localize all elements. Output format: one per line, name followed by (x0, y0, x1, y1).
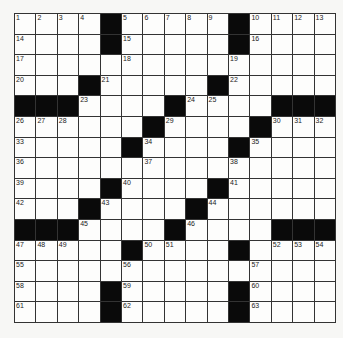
crossword-cell[interactable]: 6 (143, 14, 163, 34)
crossword-cell[interactable]: 41 (229, 179, 249, 199)
crossword-cell[interactable] (293, 179, 313, 199)
crossword-cell[interactable]: 45 (79, 220, 99, 240)
crossword-cell[interactable] (143, 199, 163, 219)
crossword-cell[interactable]: 50 (143, 241, 163, 261)
crossword-cell[interactable] (208, 138, 228, 158)
crossword-cell[interactable] (36, 179, 56, 199)
crossword-cell[interactable] (122, 220, 142, 240)
crossword-cell[interactable] (250, 241, 270, 261)
crossword-cell[interactable] (36, 35, 56, 55)
crossword-cell[interactable] (143, 261, 163, 281)
crossword-cell[interactable] (165, 199, 185, 219)
crossword-cell[interactable]: 35 (250, 138, 270, 158)
crossword-cell[interactable] (143, 55, 163, 75)
crossword-cell[interactable] (186, 35, 206, 55)
crossword-cell[interactable] (250, 179, 270, 199)
crossword-cell[interactable] (272, 179, 292, 199)
crossword-cell[interactable]: 51 (165, 241, 185, 261)
crossword-cell[interactable]: 40 (122, 179, 142, 199)
crossword-cell[interactable] (208, 117, 228, 137)
crossword-cell[interactable] (58, 35, 78, 55)
crossword-cell[interactable] (122, 199, 142, 219)
crossword-cell[interactable]: 24 (186, 96, 206, 116)
crossword-cell[interactable]: 43 (101, 199, 121, 219)
crossword-cell[interactable]: 23 (79, 96, 99, 116)
crossword-cell[interactable]: 11 (272, 14, 292, 34)
crossword-cell[interactable]: 58 (15, 282, 35, 302)
crossword-cell[interactable]: 36 (15, 158, 35, 178)
crossword-cell[interactable] (186, 117, 206, 137)
crossword-cell[interactable] (101, 241, 121, 261)
crossword-cell[interactable] (101, 117, 121, 137)
crossword-cell[interactable] (101, 138, 121, 158)
crossword-cell[interactable] (101, 55, 121, 75)
crossword-cell[interactable] (36, 282, 56, 302)
crossword-cell[interactable] (143, 179, 163, 199)
crossword-cell[interactable] (165, 35, 185, 55)
crossword-cell[interactable] (79, 282, 99, 302)
crossword-cell[interactable]: 28 (58, 117, 78, 137)
crossword-cell[interactable] (272, 138, 292, 158)
crossword-cell[interactable] (79, 117, 99, 137)
crossword-cell[interactable]: 18 (122, 55, 142, 75)
crossword-cell[interactable] (122, 158, 142, 178)
crossword-cell[interactable] (165, 282, 185, 302)
crossword-cell[interactable]: 33 (15, 138, 35, 158)
crossword-cell[interactable]: 4 (79, 14, 99, 34)
crossword-cell[interactable]: 7 (165, 14, 185, 34)
crossword-cell[interactable] (315, 199, 335, 219)
crossword-cell[interactable]: 48 (36, 241, 56, 261)
crossword-cell[interactable] (143, 302, 163, 322)
crossword-cell[interactable] (122, 96, 142, 116)
crossword-cell[interactable]: 13 (315, 14, 335, 34)
crossword-cell[interactable] (229, 261, 249, 281)
crossword-cell[interactable] (186, 76, 206, 96)
crossword-cell[interactable] (315, 138, 335, 158)
crossword-cell[interactable] (143, 96, 163, 116)
crossword-cell[interactable]: 49 (58, 241, 78, 261)
crossword-cell[interactable] (122, 117, 142, 137)
crossword-cell[interactable] (293, 282, 313, 302)
crossword-cell[interactable] (315, 76, 335, 96)
crossword-cell[interactable] (58, 282, 78, 302)
crossword-cell[interactable]: 2 (36, 14, 56, 34)
crossword-cell[interactable] (208, 158, 228, 178)
crossword-cell[interactable] (79, 179, 99, 199)
crossword-cell[interactable]: 38 (229, 158, 249, 178)
crossword-cell[interactable] (101, 96, 121, 116)
crossword-cell[interactable] (79, 302, 99, 322)
crossword-cell[interactable] (58, 302, 78, 322)
crossword-cell[interactable] (165, 55, 185, 75)
crossword-cell[interactable] (143, 76, 163, 96)
crossword-cell[interactable] (79, 55, 99, 75)
crossword-cell[interactable]: 12 (293, 14, 313, 34)
crossword-cell[interactable] (165, 261, 185, 281)
crossword-cell[interactable] (36, 55, 56, 75)
crossword-cell[interactable] (122, 76, 142, 96)
crossword-cell[interactable]: 42 (15, 199, 35, 219)
crossword-cell[interactable] (293, 35, 313, 55)
crossword-cell[interactable]: 14 (15, 35, 35, 55)
crossword-cell[interactable] (229, 220, 249, 240)
crossword-cell[interactable] (315, 55, 335, 75)
crossword-cell[interactable] (186, 282, 206, 302)
crossword-cell[interactable]: 29 (165, 117, 185, 137)
crossword-cell[interactable]: 53 (293, 241, 313, 261)
crossword-cell[interactable] (143, 35, 163, 55)
crossword-cell[interactable] (186, 241, 206, 261)
crossword-cell[interactable] (208, 282, 228, 302)
crossword-cell[interactable]: 22 (229, 76, 249, 96)
crossword-cell[interactable] (165, 302, 185, 322)
crossword-cell[interactable]: 31 (293, 117, 313, 137)
crossword-cell[interactable]: 37 (143, 158, 163, 178)
crossword-cell[interactable] (272, 55, 292, 75)
crossword-cell[interactable]: 27 (36, 117, 56, 137)
crossword-cell[interactable] (36, 158, 56, 178)
crossword-cell[interactable] (208, 55, 228, 75)
crossword-cell[interactable] (79, 241, 99, 261)
crossword-cell[interactable]: 62 (122, 302, 142, 322)
crossword-cell[interactable] (208, 35, 228, 55)
crossword-cell[interactable]: 26 (15, 117, 35, 137)
crossword-cell[interactable] (58, 158, 78, 178)
crossword-cell[interactable]: 44 (208, 199, 228, 219)
